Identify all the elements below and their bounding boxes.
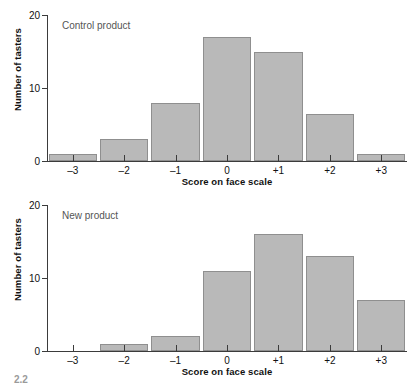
figure-caption: 2.2 — [14, 374, 28, 383]
histogram-bar — [357, 300, 405, 351]
histogram-bar — [254, 52, 302, 162]
panel-annotation-new: New product — [62, 210, 118, 221]
histogram-bar — [254, 234, 302, 351]
x-axis-tick — [227, 345, 228, 352]
x-axis-tick-label: –1 — [170, 165, 181, 176]
y-axis-tick — [42, 351, 47, 352]
y-axis-tick-label: 0 — [34, 156, 40, 167]
x-axis-tick — [124, 345, 125, 352]
chart-panel-new: Number of tasters 01020–3–2–10+1+2+3 New… — [0, 190, 419, 380]
x-axis-tick-label: +3 — [376, 355, 387, 366]
x-axis-tick — [381, 155, 382, 162]
y-axis-tick-label: 10 — [29, 83, 40, 94]
x-axis-tick — [124, 155, 125, 162]
x-axis-title: Score on face scale — [47, 366, 407, 377]
x-axis-tick — [176, 155, 177, 162]
x-axis-tick — [227, 155, 228, 162]
y-axis-tick-label: 10 — [29, 273, 40, 284]
y-axis-tick — [42, 205, 47, 206]
chart-panel-control: Number of tasters 01020–3–2–10+1+2+3 Con… — [0, 0, 419, 190]
x-axis-tick-label: –2 — [119, 165, 130, 176]
y-axis-tick-label: 0 — [34, 346, 40, 357]
y-axis-tick — [42, 161, 47, 162]
y-axis-tick-label: 20 — [29, 10, 40, 21]
x-axis-tick-label: –3 — [67, 165, 78, 176]
y-axis-line — [47, 205, 48, 351]
histogram-bar — [203, 271, 251, 351]
x-axis-tick — [330, 155, 331, 162]
x-axis-tick — [73, 345, 74, 352]
plot-area-control: 01020–3–2–10+1+2+3 — [47, 15, 407, 161]
y-axis-tick — [42, 278, 47, 279]
x-axis-tick — [73, 155, 74, 162]
x-axis-tick — [176, 345, 177, 352]
y-axis-title: Number of tasters — [12, 15, 23, 125]
x-axis-tick-label: –2 — [119, 355, 130, 366]
x-axis-tick — [278, 345, 279, 352]
y-axis-tick — [42, 15, 47, 16]
x-axis-tick-label: +1 — [273, 355, 284, 366]
y-axis-tick-label: 20 — [29, 200, 40, 211]
x-axis-title: Score on face scale — [47, 176, 407, 187]
histogram-bar — [306, 114, 354, 161]
x-axis-tick-label: +3 — [376, 165, 387, 176]
x-axis-tick — [381, 345, 382, 352]
figure-histogram-pair: Number of tasters 01020–3–2–10+1+2+3 Con… — [0, 0, 419, 383]
x-axis-tick-label: 0 — [224, 355, 230, 366]
y-axis-tick — [42, 88, 47, 89]
x-axis-tick — [330, 345, 331, 352]
x-axis-tick-label: 0 — [224, 165, 230, 176]
histogram-bar — [151, 103, 199, 161]
x-axis-tick — [278, 155, 279, 162]
histogram-bar — [306, 256, 354, 351]
x-axis-tick-label: +2 — [324, 355, 335, 366]
plot-area-new: 01020–3–2–10+1+2+3 — [47, 205, 407, 351]
x-axis-tick-label: –1 — [170, 355, 181, 366]
y-axis-line — [47, 15, 48, 161]
y-axis-title: Number of tasters — [12, 205, 23, 315]
x-axis-tick-label: +1 — [273, 165, 284, 176]
x-axis-tick-label: +2 — [324, 165, 335, 176]
x-axis-tick-label: –3 — [67, 355, 78, 366]
panel-annotation-control: Control product — [62, 20, 130, 31]
histogram-bar — [203, 37, 251, 161]
